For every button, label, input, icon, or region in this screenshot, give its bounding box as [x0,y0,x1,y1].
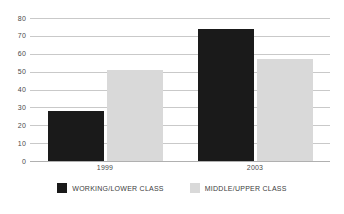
y-axis-tick-label: 60 [2,50,26,57]
y-axis-tick-label: 30 [2,104,26,111]
y-axis-tick-label: 40 [2,86,26,93]
y-axis: 01020304050607080 [0,18,344,161]
x-axis-tick-label: 1999 [97,164,113,172]
y-axis-tick-label: 20 [2,122,26,129]
legend-item-label: WORKING/LOWER CLASS [72,185,163,192]
y-axis-tick-label: 10 [2,140,26,147]
y-axis-tick-label: 80 [2,15,26,22]
legend-swatch-icon [57,183,67,193]
x-axis: 19992003 [30,164,330,178]
y-axis-tick-label: 0 [2,158,26,165]
x-axis-tick-label: 2003 [247,164,263,172]
gridline [30,161,330,162]
y-axis-tick-label: 70 [2,32,26,39]
legend-item: MIDDLE/UPPER CLASS [190,183,287,193]
y-axis-tick-label: 50 [2,68,26,75]
chart-legend: WORKING/LOWER CLASSMIDDLE/UPPER CLASS [0,183,344,193]
legend-item-label: MIDDLE/UPPER CLASS [205,185,287,192]
legend-item: WORKING/LOWER CLASS [57,183,163,193]
legend-swatch-icon [190,183,200,193]
bar-chart: 01020304050607080 19992003 WORKING/LOWER… [0,0,344,214]
